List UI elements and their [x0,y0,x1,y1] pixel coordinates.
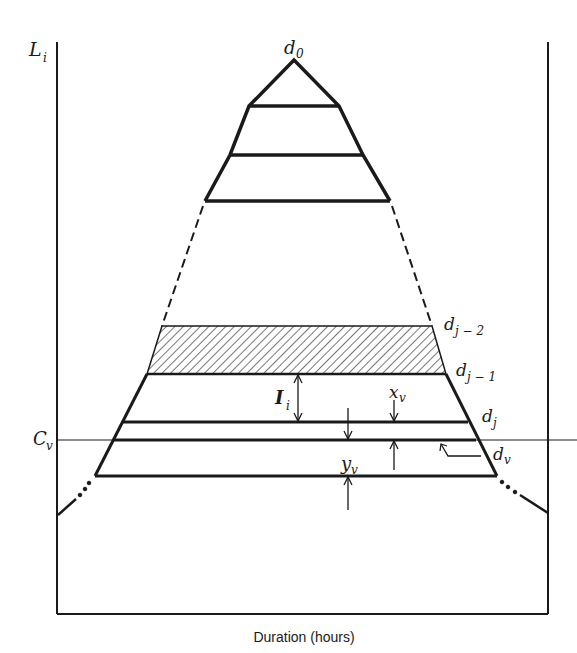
svg-text:j − 1: j − 1 [464,370,496,384]
pyramid-lower [95,374,497,476]
svg-text:C: C [33,428,47,449]
svg-text:d: d [284,37,296,58]
x-axis-label: Duration (hours) [253,629,354,645]
svg-text:d: d [444,314,455,334]
svg-text:d: d [456,360,467,380]
svg-text:v: v [504,453,511,467]
svg-text:i: i [43,51,47,65]
svg-text:j − 2: j − 2 [452,324,484,338]
svg-text:L: L [28,38,42,60]
hatched-band [147,326,446,374]
svg-text:v: v [399,391,406,405]
load-duration-diagram: L i d 0 C v d j − 2 d j − 1 d j d v I i … [0,0,577,653]
svg-text:x: x [389,382,399,402]
tails [58,480,548,515]
pyramid-upper [205,60,390,201]
svg-text:d: d [482,406,493,426]
svg-text:v: v [351,463,358,477]
svg-text:d: d [493,444,504,464]
pyramid-dashed-sides [162,206,432,326]
svg-text:i: i [286,399,290,413]
svg-text:I: I [274,387,284,408]
svg-text:v: v [46,439,53,453]
dimension-arrows [294,375,481,510]
svg-text:0: 0 [296,47,304,61]
